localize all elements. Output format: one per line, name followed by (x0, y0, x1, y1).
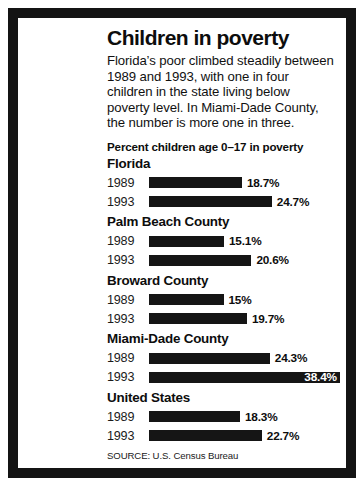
bar-row: 199320.6% (107, 251, 334, 270)
infographic-panel: Children in poverty Florida’s poor climb… (8, 8, 356, 478)
bar-year-label: 1989 (107, 293, 149, 307)
chart-group-label: Broward County (107, 272, 334, 289)
page-title: Children in poverty (107, 27, 334, 49)
chart-group: Broward County198915%199319.7% (107, 272, 334, 328)
summary-paragraph: Florida’s poor climbed steadily between … (107, 53, 334, 131)
bar-row: 199322.7% (107, 426, 334, 445)
bar-year-label: 1993 (107, 312, 149, 326)
bar-value-label: 20.6% (256, 253, 288, 267)
chart-group-label: United States (107, 389, 334, 406)
bar-track: 24.3% (149, 349, 334, 368)
bar-value-label: 22.7% (267, 429, 299, 443)
bar (149, 411, 240, 422)
chart-group-label: Palm Beach County (107, 213, 334, 230)
bar-value-label: 18.3% (245, 410, 277, 424)
bar (149, 353, 270, 364)
bar (149, 294, 224, 305)
bar-track: 38.4% (149, 368, 340, 387)
bar-track: 20.6% (149, 251, 334, 270)
bar-row: 198918.3% (107, 407, 334, 426)
bar-row: 198915% (107, 290, 334, 309)
bar-year-label: 1989 (107, 410, 149, 424)
bar-track: 15.1% (149, 232, 334, 251)
chart-group: Palm Beach County198915.1%199320.6% (107, 213, 334, 269)
bar-row: 198924.3% (107, 349, 334, 368)
bar-track: 15% (149, 290, 334, 309)
bar-year-label: 1989 (107, 234, 149, 248)
bar-value-label: 15% (229, 293, 252, 307)
bar (149, 177, 242, 188)
bar-row: 198918.7% (107, 173, 334, 192)
chart-group-label: Florida (107, 155, 334, 172)
bar-track: 18.3% (149, 407, 334, 426)
bar (149, 196, 272, 207)
chart-group: Florida198918.7%199324.7% (107, 155, 334, 211)
bar-value-label: 19.7% (252, 312, 284, 326)
bar-year-label: 1993 (107, 429, 149, 443)
bar-value-label: 38.4% (304, 370, 336, 384)
bar-value-label: 24.3% (275, 351, 307, 365)
bar (149, 313, 247, 324)
bar-chart: Florida198918.7%199324.7%Palm Beach Coun… (107, 155, 334, 445)
bar-track: 24.7% (149, 192, 334, 211)
bar-year-label: 1989 (107, 176, 149, 190)
chart-subtitle: Percent children age 0–17 in poverty (107, 140, 334, 153)
chart-group: Miami-Dade County198924.3%199338.4% (107, 330, 334, 386)
bar-year-label: 1989 (107, 351, 149, 365)
bar-track: 18.7% (149, 173, 334, 192)
bar-year-label: 1993 (107, 370, 149, 384)
bar (149, 236, 224, 247)
chart-group: United States198918.3%199322.7% (107, 389, 334, 445)
source-note: SOURCE: U.S. Census Bureau (107, 450, 334, 461)
bar (149, 430, 262, 441)
bar-value-label: 24.7% (277, 195, 309, 209)
bar-value-label: 18.7% (247, 176, 279, 190)
chart-group-label: Miami-Dade County (107, 330, 334, 347)
bar-row: 199319.7% (107, 309, 334, 328)
bar-year-label: 1993 (107, 253, 149, 267)
bar-row: 199338.4% (107, 368, 334, 387)
bar-track: 22.7% (149, 426, 334, 445)
infographic-inner: Children in poverty Florida’s poor climb… (18, 18, 346, 468)
bar-value-label: 15.1% (229, 234, 261, 248)
bar-year-label: 1993 (107, 195, 149, 209)
bar-row: 198915.1% (107, 232, 334, 251)
bar-track: 19.7% (149, 309, 334, 328)
bar-row: 199324.7% (107, 192, 334, 211)
bar (149, 255, 251, 266)
